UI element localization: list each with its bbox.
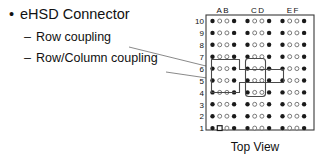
- pin-open: [253, 126, 257, 130]
- pin-open: [260, 79, 264, 83]
- pin-open: [288, 19, 292, 23]
- connector-diagram: ABCDEF 10987654321 Top View: [193, 4, 317, 167]
- row-label: 10: [195, 17, 204, 26]
- pin-open: [260, 31, 264, 35]
- pin-filled: [267, 114, 271, 118]
- pin-filled: [267, 102, 271, 106]
- row-label: 2: [200, 112, 205, 121]
- pin-open: [225, 31, 229, 35]
- pin-open: [218, 67, 222, 71]
- pin-open: [288, 114, 292, 118]
- pin-open: [288, 126, 292, 130]
- pin-filled: [210, 19, 214, 23]
- pin-open: [218, 43, 222, 47]
- column-label: CD: [251, 6, 266, 15]
- row-labels: 10987654321: [195, 17, 204, 133]
- dash-marker-icon: –: [24, 30, 31, 44]
- row-label: 1: [200, 124, 205, 133]
- pin1-marker-icon: [217, 126, 222, 131]
- dash-marker-icon: –: [24, 51, 31, 65]
- pin-open: [225, 126, 229, 130]
- pin-filled: [210, 126, 214, 130]
- pin-open: [218, 102, 222, 106]
- pin-open: [253, 102, 257, 106]
- pin-filled: [245, 43, 249, 47]
- pin-open: [295, 79, 299, 83]
- pin-filled: [232, 19, 236, 23]
- slide-canvas: • eHSD Connector – Row coupling – Row/Co…: [0, 0, 320, 167]
- pin-filled: [210, 55, 214, 59]
- pin-open: [260, 126, 264, 130]
- pin-filled: [267, 126, 271, 130]
- pin-open: [253, 90, 257, 94]
- pin-open: [288, 67, 292, 71]
- pin-open: [225, 55, 229, 59]
- pin-filled: [267, 90, 271, 94]
- row-label: 5: [200, 77, 205, 86]
- pin-open: [295, 67, 299, 71]
- pin-filled: [232, 55, 236, 59]
- connector-grid: ABCDEF 10987654321: [193, 4, 317, 140]
- bullet-item-row-column-coupling: – Row/Column coupling: [8, 51, 198, 65]
- pin-open: [260, 114, 264, 118]
- pin-filled: [302, 126, 306, 130]
- bullet-label-row-column-coupling: Row/Column coupling: [36, 51, 158, 65]
- pin-filled: [302, 19, 306, 23]
- pin-filled: [280, 19, 284, 23]
- pin-filled: [245, 114, 249, 118]
- pin-open: [260, 19, 264, 23]
- pin-filled: [280, 31, 284, 35]
- pin-open: [295, 31, 299, 35]
- pin-filled: [302, 66, 306, 70]
- pin-filled: [302, 78, 306, 82]
- row-label: 6: [200, 65, 205, 74]
- pin-filled: [232, 43, 236, 47]
- pin-filled: [232, 66, 236, 70]
- pin-filled: [267, 55, 271, 59]
- pin-open: [253, 31, 257, 35]
- pin-filled: [245, 31, 249, 35]
- pin-open: [260, 102, 264, 106]
- pin-open: [295, 55, 299, 59]
- pin-filled: [280, 55, 284, 59]
- column-label: EF: [287, 6, 300, 15]
- pin-open: [225, 114, 229, 118]
- bullet-marker-icon: •: [9, 6, 14, 23]
- pin-open: [218, 31, 222, 35]
- pin-filled: [280, 90, 284, 94]
- pin-open: [260, 43, 264, 47]
- pin-filled: [267, 19, 271, 23]
- pin-open: [260, 90, 264, 94]
- pin-filled: [280, 43, 284, 47]
- pin-filled: [267, 66, 271, 70]
- pin-filled: [232, 114, 236, 118]
- pin-open: [288, 102, 292, 106]
- pin-filled: [302, 114, 306, 118]
- pin-open: [295, 19, 299, 23]
- row-label: 8: [200, 41, 205, 50]
- pin-filled: [232, 102, 236, 106]
- pin-open: [288, 55, 292, 59]
- pin-filled: [245, 19, 249, 23]
- bullet-label-row-coupling: Row coupling: [36, 30, 111, 44]
- row-label: 9: [200, 29, 205, 38]
- pin-open: [225, 43, 229, 47]
- row-label: 4: [200, 89, 205, 98]
- pin-filled: [232, 78, 236, 82]
- bullet-item-row-coupling: – Row coupling: [8, 30, 198, 44]
- pin-filled: [302, 31, 306, 35]
- pin-filled: [210, 31, 214, 35]
- bullet-text-block: • eHSD Connector – Row coupling – Row/Co…: [8, 6, 198, 65]
- pin-filled: [232, 31, 236, 35]
- pin-open: [218, 114, 222, 118]
- pin-open: [288, 79, 292, 83]
- pin-filled: [267, 31, 271, 35]
- pin-filled: [245, 102, 249, 106]
- pin-open: [218, 19, 222, 23]
- pin-filled: [280, 114, 284, 118]
- pin-open: [288, 31, 292, 35]
- pin-open: [295, 43, 299, 47]
- pin-filled: [245, 126, 249, 130]
- pin-filled: [280, 126, 284, 130]
- pin-open: [225, 19, 229, 23]
